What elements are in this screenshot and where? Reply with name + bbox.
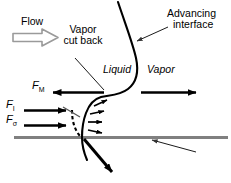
surface-tension-force-label: Fσ [6, 114, 17, 128]
evaporation-arrow-2 [90, 111, 104, 114]
figure-canvas: Flow Vapor cut back Advancing interface … [0, 0, 231, 183]
surface-tension-force-symbol: F [6, 113, 13, 125]
inertia-force-subscript: I [13, 105, 15, 112]
vapor-label: Vapor [147, 64, 175, 75]
advancing-interface-leader [137, 27, 168, 41]
momentum-force-symbol: F [32, 79, 39, 91]
microlayer-arrow [84, 139, 112, 172]
inertia-force-label: FI [6, 99, 15, 113]
momentum-force-label: FM [32, 80, 45, 94]
evaporation-arrow-1 [94, 100, 107, 106]
contact-angle-tick [63, 107, 80, 117]
liquid-label: Liquid [103, 64, 131, 75]
evaporation-arrow-4 [88, 130, 102, 133]
surface-tension-force-subscript: σ [13, 120, 17, 127]
inertia-force-symbol: F [6, 98, 13, 110]
flow-arrow-icon [13, 29, 58, 46]
vapor-cutback-leader [75, 58, 104, 90]
vapor-cutback-line2: cut back [55, 35, 111, 46]
advancing-interface-label: Advancing interface [167, 8, 216, 30]
advancing-interface-line2: interface [173, 19, 216, 30]
wall-leader [152, 140, 196, 152]
vapor-cutback-label: Vapor cut back [55, 24, 111, 46]
momentum-force-subscript: M [39, 86, 45, 93]
flow-label: Flow [21, 16, 43, 27]
